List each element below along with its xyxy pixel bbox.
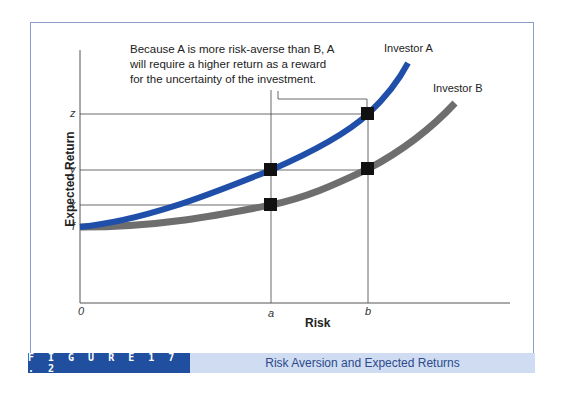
figure-number: F I G U R E 1 7 . 2 — [28, 353, 190, 373]
annotation-bracket — [278, 91, 367, 112]
marker-b-z — [361, 107, 374, 120]
figure-title: Risk Aversion and Expected Returns — [190, 353, 535, 373]
annotation-text: Because A is more risk-averse than B, A … — [130, 42, 380, 87]
annotation-line-2: will require a higher return as a reward — [130, 57, 380, 72]
y-tick-z: z — [70, 107, 76, 119]
investor-b-label: Investor B — [433, 82, 483, 94]
x-tick-a: a — [268, 307, 274, 319]
investor-a-curve — [80, 63, 408, 227]
x-tick-b: b — [365, 305, 371, 317]
marker-b-y — [361, 162, 374, 175]
investor-a-label: Investor A — [384, 42, 433, 54]
annotation-line-1: Because A is more risk-averse than B, A — [130, 42, 380, 57]
marker-a-x — [264, 198, 277, 211]
marker-a-y — [264, 163, 277, 176]
x-axis-label: Risk — [305, 316, 330, 330]
x-tick-0: 0 — [78, 305, 84, 317]
annotation-line-3: for the uncertainty of the investment. — [130, 72, 380, 87]
y-axis-label: Expected Return — [63, 131, 77, 226]
figure-caption-bar: F I G U R E 1 7 . 2 Risk Aversion and Ex… — [28, 353, 535, 373]
